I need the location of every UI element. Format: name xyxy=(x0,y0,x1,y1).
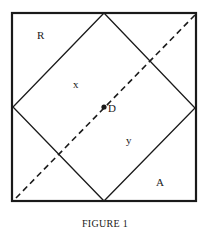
region-label-y: y xyxy=(126,134,132,146)
region-label-r: R xyxy=(37,29,45,41)
figure-caption: FIGURE 1 xyxy=(82,218,128,229)
center-point-d xyxy=(101,104,106,109)
figure-1-diagram: D R x y A FIGURE 1 xyxy=(0,0,209,230)
region-label-a: A xyxy=(156,176,164,188)
point-label-d: D xyxy=(108,102,116,114)
region-label-x: x xyxy=(73,78,79,90)
